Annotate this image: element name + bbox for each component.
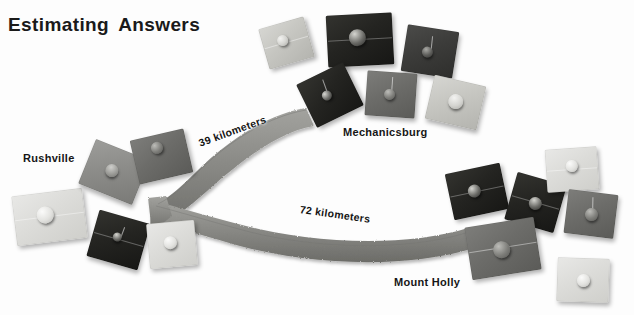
map-tile-peg-highlight [164, 236, 175, 246]
map-tile-peg-highlight [468, 184, 480, 196]
map-tile-peg-highlight [566, 160, 576, 170]
page-title-word-1: Estimating [8, 14, 109, 35]
map-tile-mechanicsburg [425, 75, 487, 131]
map-tile-mountholly [556, 257, 610, 303]
place-label-rushville: Rushville [23, 152, 75, 164]
page-title: EstimatingAnswers [8, 14, 200, 36]
map-tile-peg [383, 88, 395, 100]
map-tile-mechanicsburg [401, 24, 460, 79]
page-title-word-2: Answers [118, 14, 200, 35]
map-tile-peg-highlight [585, 208, 596, 219]
map-tile-mechanicsburg [326, 12, 395, 67]
map-tile-peg-highlight [113, 232, 122, 240]
road-label-72-kilometers: 72 kilometers [299, 203, 371, 225]
map-tile-peg-highlight [321, 90, 331, 100]
map-tile-peg-highlight [494, 241, 509, 256]
map-tile-mechanicsburg [364, 70, 417, 118]
map-tile-peg [584, 207, 598, 221]
map-tile-mountholly [564, 189, 619, 239]
map-tile-rushville [86, 210, 150, 271]
road-label-39-kilometers: 39 kilometers [197, 113, 268, 149]
map-tile-rushville [146, 220, 198, 269]
map-tile-peg-highlight [384, 89, 393, 98]
map-tile-peg-highlight [277, 35, 288, 45]
map-tile-peg-highlight [529, 196, 542, 208]
map-tile-peg-highlight [423, 47, 433, 56]
map-tile-peg-highlight [577, 275, 588, 285]
map-tile-peg-highlight [151, 141, 162, 152]
map-tile-mountholly [545, 146, 600, 193]
illustration-canvas: EstimatingAnswers [0, 0, 634, 315]
map-tile-mechanicsburg [258, 16, 315, 69]
map-tile-mountholly [445, 163, 510, 221]
map-tile-peg-highlight [449, 94, 463, 108]
map-tile-peg-highlight [37, 207, 52, 221]
place-label-mechanicsburg: Mechanicsburg [343, 126, 428, 138]
map-tile-body [130, 128, 194, 184]
place-label-mount-holly: Mount Holly [394, 276, 460, 288]
map-tile-peg-highlight [350, 30, 364, 43]
map-tile-mechanicsburg [296, 62, 364, 128]
map-tile-rushville [130, 128, 194, 184]
map-tile-mountholly [464, 217, 541, 280]
map-tile-rushville [11, 188, 88, 246]
